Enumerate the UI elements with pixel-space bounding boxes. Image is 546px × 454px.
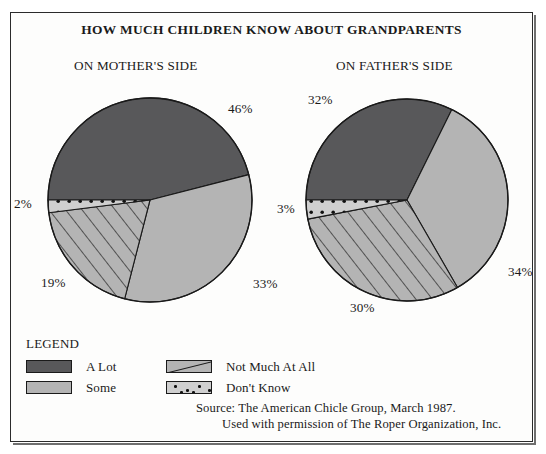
label-mother-some: 33% xyxy=(253,276,278,292)
legend-label-not-much-at-all: Not Much At All xyxy=(226,359,326,375)
label-father-dont-know: 3% xyxy=(277,201,295,217)
legend: LEGEND A Lot Not Much At All Some Don't … xyxy=(26,336,326,398)
legend-label-some: Some xyxy=(86,380,160,396)
legend-label-dont-know: Don't Know xyxy=(226,380,326,396)
label-mother-a-lot: 46% xyxy=(228,101,253,117)
label-father-some: 34% xyxy=(508,264,533,280)
chart-figure: HOW MUCH CHILDREN KNOW ABOUT GRANDPARENT… xyxy=(0,0,546,454)
label-father-a-lot: 32% xyxy=(308,92,333,108)
label-father-not-much: 30% xyxy=(350,300,375,316)
source-line-2: Used with permission of The Roper Organi… xyxy=(196,416,526,432)
label-mother-dont-know: 2% xyxy=(14,196,32,212)
legend-label-a-lot: A Lot xyxy=(86,359,160,375)
pie-mother xyxy=(48,98,252,302)
legend-swatch-not-much-at-all xyxy=(166,360,212,373)
legend-swatch-a-lot xyxy=(26,360,72,373)
legend-swatch-dont-know xyxy=(166,381,212,394)
pie-father xyxy=(306,99,508,301)
source-line-1: Source: The American Chicle Group, March… xyxy=(196,401,456,415)
legend-swatch-some xyxy=(26,381,72,394)
legend-heading: LEGEND xyxy=(26,336,326,352)
label-mother-not-much: 19% xyxy=(41,275,66,291)
source-note: Source: The American Chicle Group, March… xyxy=(196,400,526,432)
